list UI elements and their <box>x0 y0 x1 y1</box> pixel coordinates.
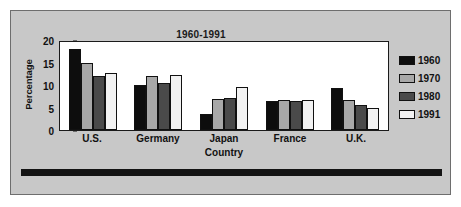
x-axis-tick-label: Japan <box>195 133 253 147</box>
y-axis-tick-label: 20 <box>30 36 54 47</box>
legend-swatch-1980 <box>399 92 415 101</box>
y-axis-tick-label: 15 <box>30 58 54 69</box>
bar-france-1960 <box>266 101 278 130</box>
legend-swatch-1970 <box>399 74 415 83</box>
chart-legend: 1960197019801991 <box>399 51 459 123</box>
y-axis-tick-label: 0 <box>30 126 54 137</box>
chart-title: 1960-1991 <box>11 29 391 40</box>
x-axis-tick-label: Germany <box>129 133 187 147</box>
bar-japan-1960 <box>200 114 212 130</box>
plot-area <box>59 41 389 131</box>
bar-us-1960 <box>69 49 81 130</box>
bar-group <box>331 42 379 130</box>
bar-france-1991 <box>302 100 314 130</box>
chart-figure: 1960-1991 Percentage 05101520 U.S.German… <box>10 10 451 195</box>
legend-swatch-1991 <box>399 110 415 119</box>
bar-uk-1980 <box>355 105 367 130</box>
y-axis-tick-label: 5 <box>30 103 54 114</box>
legend-item-1970: 1970 <box>399 69 459 87</box>
legend-label-1970: 1970 <box>418 73 440 84</box>
bar-germany-1991 <box>170 75 182 130</box>
bar-france-1970 <box>278 100 290 130</box>
x-axis-title: Country <box>59 147 389 158</box>
x-axis-tick-label: U.S. <box>63 133 121 147</box>
legend-label-1991: 1991 <box>418 109 440 120</box>
x-axis-tick-label: France <box>261 133 319 147</box>
legend-swatch-1960 <box>399 56 415 65</box>
bar-us-1970 <box>81 63 93 131</box>
legend-item-1991: 1991 <box>399 105 459 123</box>
bar-germany-1970 <box>146 76 158 130</box>
x-axis-tick-labels: U.S.GermanyJapanFranceU.K. <box>59 133 389 147</box>
bar-france-1980 <box>290 101 302 130</box>
bars-layer <box>60 42 388 130</box>
bar-us-1980 <box>93 76 105 130</box>
legend-item-1960: 1960 <box>399 51 459 69</box>
bar-japan-1970 <box>212 99 224 130</box>
bar-germany-1980 <box>158 83 170 130</box>
legend-item-1980: 1980 <box>399 87 459 105</box>
legend-label-1960: 1960 <box>418 55 440 66</box>
bar-group <box>134 42 182 130</box>
y-axis-tick-label: 10 <box>30 81 54 92</box>
x-axis-tick-label: U.K. <box>327 133 385 147</box>
bar-us-1991 <box>105 73 117 130</box>
bar-uk-1960 <box>331 88 343 130</box>
bottom-rule-decoration <box>21 169 442 176</box>
bar-japan-1991 <box>236 87 248 130</box>
bar-group <box>69 42 117 130</box>
bar-uk-1991 <box>367 108 379 130</box>
bar-germany-1960 <box>134 85 146 130</box>
legend-label-1980: 1980 <box>418 91 440 102</box>
y-axis-ticks: 05101520 <box>29 41 59 131</box>
bar-japan-1980 <box>224 98 236 130</box>
bar-uk-1970 <box>343 100 355 130</box>
bar-group <box>266 42 314 130</box>
bar-group <box>200 42 248 130</box>
